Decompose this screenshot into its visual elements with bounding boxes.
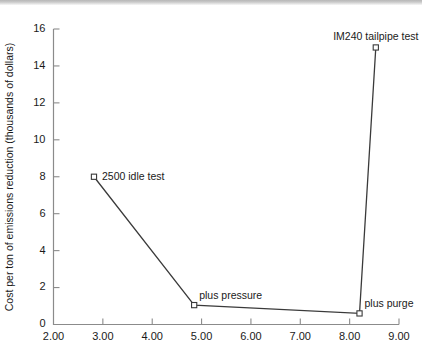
data-point-marker — [192, 303, 197, 308]
y-tick-label: 2 — [39, 280, 45, 292]
x-tick-label: 9.00 — [388, 330, 409, 342]
y-tick-label: 14 — [33, 59, 45, 71]
x-tick-label: 5.00 — [191, 330, 212, 342]
x-axis-ticks: 2.003.004.005.006.007.008.009.00 — [43, 319, 410, 342]
x-tick-label: 2.00 — [43, 330, 64, 342]
chart-figure: Cost per ton of emissions reduction (tho… — [0, 0, 422, 348]
y-tick-label: 16 — [33, 22, 45, 34]
data-point-label: IM240 tailpipe test — [333, 30, 418, 42]
y-tick-label: 8 — [39, 170, 45, 182]
y-axis-ticks: 0246810121416 — [33, 22, 59, 330]
y-tick-label: 0 — [39, 317, 45, 329]
x-tick-label: 7.00 — [290, 330, 311, 342]
x-tick-label: 3.00 — [92, 330, 113, 342]
y-axis-title: Cost per ton of emissions reduction (tho… — [3, 43, 15, 311]
point-annotations: 2500 idle testplus pressureplus purgeIM2… — [102, 30, 419, 309]
x-tick-label: 6.00 — [240, 330, 261, 342]
y-tick-label: 10 — [33, 133, 45, 145]
data-point-label: plus pressure — [199, 289, 262, 301]
x-tick-label: 4.00 — [142, 330, 163, 342]
y-tick-label: 4 — [39, 244, 45, 256]
x-tick-label: 8.00 — [339, 330, 360, 342]
line-chart-svg: Cost per ton of emissions reduction (tho… — [0, 0, 422, 348]
data-point-label: plus purge — [365, 297, 414, 309]
plot-area: Cost per ton of emissions reduction (tho… — [0, 0, 422, 348]
data-point-label: 2500 idle test — [102, 170, 165, 182]
y-tick-label: 12 — [33, 96, 45, 108]
data-point-marker — [91, 174, 96, 179]
data-point-marker — [373, 45, 378, 50]
data-point-marker — [357, 311, 362, 316]
y-tick-label: 6 — [39, 207, 45, 219]
